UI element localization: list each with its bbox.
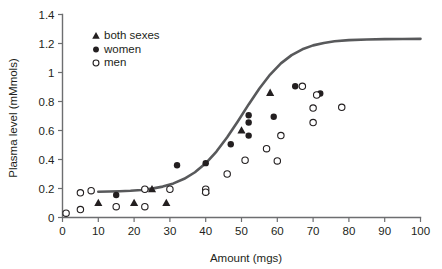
y-tick-label: 0.2	[39, 183, 55, 195]
data-point	[245, 112, 251, 118]
data-point	[162, 199, 170, 206]
y-tick-label: 0	[48, 212, 54, 224]
x-tick-label: 40	[199, 225, 212, 237]
y-tick-label: 1.2	[39, 38, 55, 50]
data-point	[142, 203, 148, 209]
data-point	[113, 192, 119, 198]
legend: both sexeswomenmen	[92, 29, 160, 68]
y-tick-label: 0.4	[39, 154, 56, 166]
x-tick-label: 20	[128, 225, 141, 237]
data-point	[245, 132, 251, 138]
data-point	[167, 186, 173, 192]
legend-marker-icon	[93, 47, 99, 53]
legend-item-women: women	[93, 43, 141, 55]
data-point	[130, 199, 138, 206]
x-tick-label: 10	[92, 225, 105, 237]
x-tick-label: 100	[411, 225, 430, 237]
data-point	[228, 141, 234, 147]
data-point	[94, 199, 102, 206]
x-axis-ticks: 0102030405060708090100	[59, 218, 430, 237]
data-point	[292, 83, 298, 89]
legend-item-both-sexes: both sexes	[92, 29, 160, 41]
x-tick-label: 60	[271, 225, 284, 237]
data-point	[266, 89, 274, 96]
x-tick-label: 30	[164, 225, 177, 237]
legend-label: both sexes	[104, 29, 160, 41]
data-point	[310, 105, 316, 111]
data-point	[77, 206, 83, 212]
data-point	[174, 162, 180, 168]
y-tick-label: 0.8	[39, 96, 55, 108]
data-point	[203, 189, 209, 195]
x-tick-label: 80	[343, 225, 356, 237]
data-point	[203, 160, 209, 166]
data-point	[77, 190, 83, 196]
x-axis-title: Amount (mgs)	[210, 252, 282, 264]
data-point	[263, 145, 269, 151]
data-point	[299, 83, 305, 89]
series-women	[113, 83, 323, 198]
data-point	[271, 114, 277, 120]
legend-label: women	[103, 43, 141, 55]
x-tick-label: 50	[235, 225, 248, 237]
data-point	[274, 158, 280, 164]
data-point	[237, 126, 245, 133]
chart-container: 00.20.40.60.811.21.4 0102030405060708090…	[0, 0, 442, 269]
logistic-fit-curve	[98, 39, 420, 192]
x-tick-label: 70	[307, 225, 320, 237]
data-point	[242, 157, 248, 163]
y-axis-title: Plasma level (mMmols)	[7, 58, 19, 178]
data-point	[113, 203, 119, 209]
y-axis-ticks: 00.20.40.60.811.21.4	[39, 9, 63, 224]
y-tick-label: 1.4	[39, 9, 56, 21]
data-point	[310, 119, 316, 125]
x-tick-label: 90	[378, 225, 391, 237]
legend-item-men: men	[93, 56, 126, 68]
data-point	[313, 92, 319, 98]
legend-label: men	[104, 56, 126, 68]
fit-curve	[98, 39, 420, 192]
data-point	[278, 132, 284, 138]
legend-marker-icon	[93, 60, 99, 66]
data-point	[63, 210, 69, 216]
data-point	[142, 186, 148, 192]
data-point	[245, 119, 251, 125]
series-men	[63, 83, 345, 216]
y-tick-label: 0.6	[39, 125, 55, 137]
legend-marker-icon	[92, 32, 100, 39]
scatter-plot-svg: 00.20.40.60.811.21.4 0102030405060708090…	[0, 0, 442, 269]
y-tick-label: 1	[48, 67, 54, 79]
data-point	[339, 104, 345, 110]
data-point	[224, 171, 230, 177]
data-points	[63, 83, 345, 216]
data-point	[88, 187, 94, 193]
x-tick-label: 0	[59, 225, 65, 237]
